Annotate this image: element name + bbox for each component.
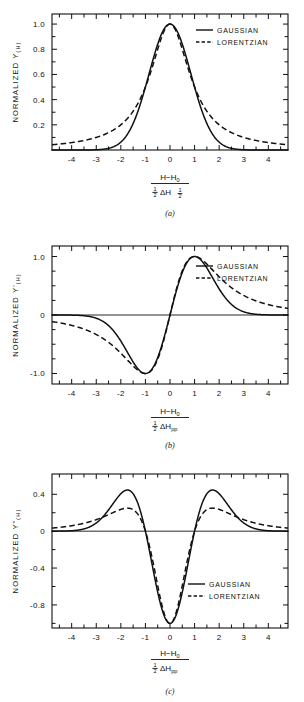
- legend-gaussian-label: GAUSSIAN: [209, 581, 251, 588]
- x-axis-label: H−H012ΔHpp: [151, 649, 189, 674]
- x-tick-label: -1: [142, 633, 150, 642]
- x-tick-label: 0: [168, 389, 173, 398]
- x-axis-denominator: 12ΔHpp: [152, 420, 177, 432]
- half-numerator: 1: [153, 186, 156, 192]
- delta-h-term: ΔHpp: [160, 422, 177, 433]
- x-axis-numerator: H−H0: [160, 407, 179, 417]
- y-tick-label: 1.0: [33, 253, 45, 262]
- x-tick-label: 3: [241, 633, 246, 642]
- x-axis-label: H−H012ΔH12: [151, 173, 189, 199]
- gaussian-curve: [52, 490, 288, 623]
- x-tick-label: 0: [168, 633, 173, 642]
- y-axis-label: NORMALIZED Y(H): [11, 41, 21, 122]
- legend-gaussian-label: GAUSSIAN: [217, 27, 259, 34]
- x-tick-label: -3: [92, 155, 100, 164]
- half-denominator: 2: [153, 426, 156, 432]
- y-tick-label: 0: [40, 311, 45, 320]
- x-axis-numerator: H−H0: [160, 649, 179, 659]
- legend: GAUSSIANLORENTZIAN: [188, 581, 260, 600]
- x-tick-label: -3: [92, 389, 100, 398]
- legend: GAUSSIANLORENTZIAN: [196, 263, 268, 282]
- svg-text:NORMALIZED Y'(H): NORMALIZED Y'(H): [11, 273, 21, 357]
- y-tick-label: 1.0: [33, 20, 45, 29]
- y-tick-label: 0.6: [33, 70, 45, 79]
- y-tick-label: -0.8: [30, 601, 45, 610]
- x-axis-label: H−H012ΔHpp: [151, 407, 189, 432]
- x-tick-label: 0: [168, 155, 173, 164]
- panel-b-plot: 1.00-1.0-4-3-2-101234NORMALIZED Y'(H)GAU…: [0, 232, 304, 460]
- x-axis-numerator: H−H0: [160, 173, 179, 183]
- x-tick-label: -2: [117, 389, 125, 398]
- x-tick-label: 1: [192, 155, 197, 164]
- x-tick-label: 2: [217, 155, 222, 164]
- legend: GAUSSIANLORENTZIAN: [196, 27, 268, 46]
- x-tick-label: 3: [241, 155, 246, 164]
- svg-text:NORMALIZED Y"(H): NORMALIZED Y"(H): [11, 509, 21, 594]
- plot-frame: [52, 14, 288, 150]
- panel-a-plot: 0.20.40.60.81.0-4-3-2-101234NORMALIZED Y…: [0, 0, 304, 232]
- x-tick-label: 1: [192, 389, 197, 398]
- x-tick-label: 3: [241, 389, 246, 398]
- plot-frame: [52, 474, 288, 628]
- lorentzian-curve: [52, 508, 288, 623]
- x-tick-label: -1: [142, 389, 150, 398]
- x-tick-label: 2: [217, 389, 222, 398]
- y-tick-label: 0.4: [33, 490, 45, 499]
- delta-h-term: ΔHpp: [160, 664, 177, 675]
- lineshape-figure: 0.20.40.60.81.0-4-3-2-101234NORMALIZED Y…: [0, 0, 304, 702]
- legend-lorentzian-label: LORENTZIAN: [217, 39, 268, 46]
- half-denominator: 2: [153, 192, 156, 198]
- y-tick-label: -1.0: [30, 369, 45, 378]
- panel-caption: (c): [166, 687, 175, 696]
- x-tick-label: 2: [217, 633, 222, 642]
- x-tick-label: -3: [92, 633, 100, 642]
- y-tick-label: -0.4: [30, 564, 45, 573]
- x-tick-label: 1: [192, 633, 197, 642]
- x-tick-label: -4: [68, 389, 76, 398]
- y-axis-label: NORMALIZED Y"(H): [11, 509, 21, 594]
- x-tick-label: 4: [266, 633, 271, 642]
- y-tick-label: 0.4: [33, 96, 45, 105]
- svg-text:NORMALIZED Y(H): NORMALIZED Y(H): [11, 41, 21, 122]
- x-tick-label: -4: [68, 155, 76, 164]
- legend-gaussian-label: GAUSSIAN: [217, 263, 259, 270]
- y-tick-label: 0.8: [33, 45, 45, 54]
- x-tick-label: 4: [266, 155, 271, 164]
- panel-caption: (b): [165, 441, 175, 450]
- x-tick-label: -1: [142, 155, 150, 164]
- panel-b: 1.00-1.0-4-3-2-101234NORMALIZED Y'(H)GAU…: [0, 232, 304, 460]
- panel-a: 0.20.40.60.81.0-4-3-2-101234NORMALIZED Y…: [0, 0, 304, 232]
- panel-caption: (a): [165, 209, 175, 218]
- y-tick-label: 0.2: [33, 121, 45, 130]
- half-numerator: 1: [153, 662, 156, 668]
- delta-h-term: ΔH: [160, 188, 171, 197]
- y-axis-label: NORMALIZED Y'(H): [11, 273, 21, 357]
- x-tick-label: -2: [117, 155, 125, 164]
- half-denominator: 2: [153, 668, 156, 674]
- legend-lorentzian-label: LORENTZIAN: [217, 275, 268, 282]
- x-tick-label: -2: [117, 633, 125, 642]
- x-axis-denominator: 12ΔH12: [152, 186, 182, 199]
- y-tick-label: 0: [40, 527, 45, 536]
- x-tick-label: -4: [68, 633, 76, 642]
- half-numerator: 1: [153, 420, 156, 426]
- panel-c: 0.40-0.4-0.8-4-3-2-101234NORMALIZED Y"(H…: [0, 460, 304, 702]
- x-tick-label: 4: [266, 389, 271, 398]
- half-sub-numerator: 1: [178, 187, 181, 193]
- x-axis-denominator: 12ΔHpp: [152, 662, 177, 674]
- panel-c-plot: 0.40-0.4-0.8-4-3-2-101234NORMALIZED Y"(H…: [0, 460, 304, 702]
- legend-lorentzian-label: LORENTZIAN: [209, 593, 260, 600]
- half-sub-denominator: 2: [178, 193, 181, 199]
